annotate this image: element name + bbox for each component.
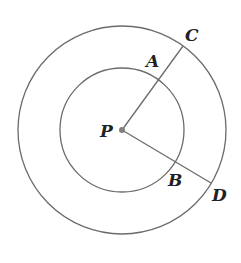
label-C: C (185, 25, 199, 45)
label-A: A (144, 51, 159, 71)
concentric-circles-diagram: P A B C D (0, 0, 241, 263)
label-D: D (211, 185, 227, 205)
segment-PD (122, 130, 211, 183)
label-B: B (167, 170, 182, 190)
center-point-P (119, 127, 125, 133)
label-P: P (99, 121, 114, 141)
